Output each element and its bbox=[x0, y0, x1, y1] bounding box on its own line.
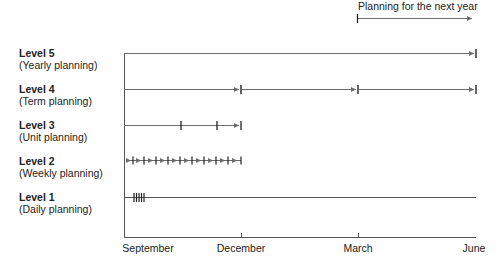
level-3-timeline bbox=[124, 121, 241, 130]
level-4-timeline bbox=[124, 85, 476, 94]
axes bbox=[124, 53, 476, 238]
next-year-arrow bbox=[357, 14, 472, 23]
level-1-timeline bbox=[124, 193, 476, 202]
level-5-timeline bbox=[124, 49, 476, 58]
level-2-timeline bbox=[126, 157, 241, 165]
timeline-diagram bbox=[0, 0, 497, 266]
